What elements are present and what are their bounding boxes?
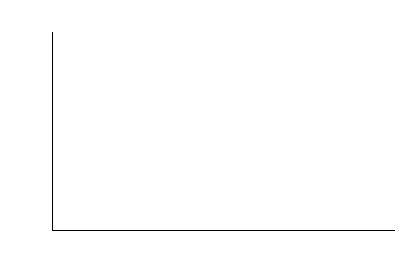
x-axis-line	[52, 230, 395, 231]
y-axis-line	[52, 32, 53, 231]
gdp-latitude-scatter-figure	[0, 0, 408, 274]
